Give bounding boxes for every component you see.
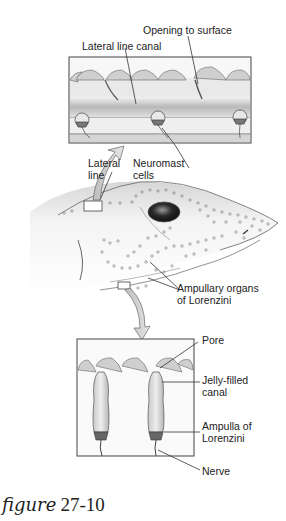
figure-caption: figure27-10 xyxy=(2,494,105,516)
label-pore: Pore xyxy=(202,334,224,346)
shark-head xyxy=(30,172,278,296)
label-opening-to-surface: Opening to surface xyxy=(143,24,232,36)
label-ampullary-line1: Ampullary organs xyxy=(177,282,259,294)
shark-eye xyxy=(148,202,180,222)
label-lateral-line-canal: Lateral line canal xyxy=(82,40,161,52)
jelly-canal-right xyxy=(148,372,164,432)
label-nerve: Nerve xyxy=(202,465,230,477)
bottom-panel xyxy=(77,339,200,470)
label-lateral-line-line2: line xyxy=(88,169,104,181)
ampulla xyxy=(149,432,163,440)
label-neuromast-line2: cells xyxy=(133,169,154,181)
ampullary-callout-box xyxy=(118,282,130,289)
zoom-arrow-down xyxy=(125,288,150,340)
label-jelly-line2: canal xyxy=(202,386,227,398)
label-ampulla-line2: Lorenzini xyxy=(202,432,245,444)
label-jelly-line1: Jelly-filled xyxy=(202,374,248,386)
top-panel xyxy=(69,36,251,168)
lateral-line-callout-box xyxy=(84,201,102,211)
caption-number: 27-10 xyxy=(60,494,104,515)
label-neuromast-line1: Neuromast xyxy=(133,157,184,169)
caption-word: figure xyxy=(2,494,56,515)
jelly-canal-left xyxy=(93,372,109,432)
leader-ampullary-1 xyxy=(148,278,180,290)
label-ampullary-line2: of Lorenzini xyxy=(177,294,231,306)
label-ampulla-line1: Ampulla of xyxy=(202,420,252,432)
label-lateral-line-line1: Lateral xyxy=(88,157,120,169)
